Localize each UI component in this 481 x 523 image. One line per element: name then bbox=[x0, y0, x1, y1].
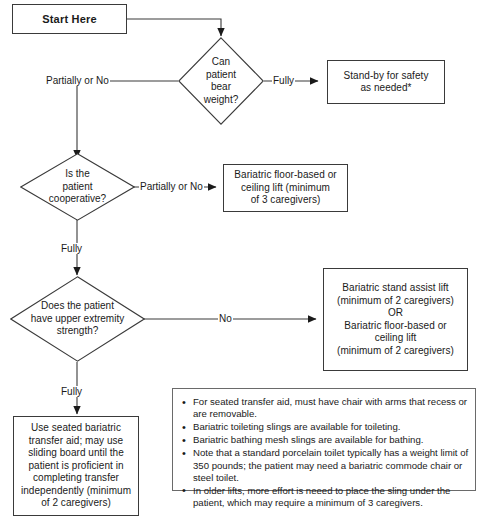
node-seated-line5: completing transfer bbox=[33, 472, 119, 483]
edge-label-no-strength: No bbox=[218, 313, 233, 324]
node-standby-for-safety: Stand-by for safety as needed* bbox=[327, 60, 445, 104]
list-item: • In older lifts, more effort is neeed t… bbox=[193, 485, 469, 510]
notes-list: • For seated transfer aid, must have cha… bbox=[173, 389, 475, 516]
bullet-icon: • bbox=[182, 484, 186, 496]
note-text: Bariatric bathing mesh slings are availa… bbox=[193, 434, 423, 445]
node-seated-line3: sliding board until the bbox=[28, 447, 124, 458]
list-item: • Bariatric toileting slings are availab… bbox=[193, 421, 469, 433]
note-text: Note that a standard porcelain toilet ty… bbox=[193, 447, 468, 483]
node-floorlift-line2: ceiling lift (minimum bbox=[241, 182, 330, 193]
edge-label-fully-cooperative: Fully bbox=[60, 243, 83, 254]
decision-bear-weight-line1: Can bbox=[212, 56, 230, 67]
edge-label-fully-weight: Fully bbox=[272, 75, 295, 86]
bullet-icon: • bbox=[182, 447, 186, 459]
decision-cooperative-line3: cooperative? bbox=[49, 193, 106, 204]
node-floor-ceiling-lift-3: Bariatric floor-based or ceiling lift (m… bbox=[223, 164, 348, 212]
node-standassist-line6: (minimum of 2 caregivers) bbox=[337, 345, 454, 356]
decision-strength-line1: Does the patient bbox=[41, 300, 114, 311]
node-standassist-line2: (minimum of 2 caregivers) bbox=[337, 295, 454, 306]
node-seated-line4: patient is proficient in bbox=[28, 460, 123, 471]
node-seated-transfer-aid: Use seated bariatric transfer aid; may u… bbox=[13, 416, 139, 516]
node-seated-line2: transfer aid; may use bbox=[29, 435, 123, 446]
decision-bear-weight-line3: bear bbox=[211, 81, 231, 92]
list-item: • Note that a standard porcelain toilet … bbox=[193, 447, 469, 484]
notes-panel: • For seated transfer aid, must have cha… bbox=[172, 388, 476, 491]
node-seated-line1: Use seated bariatric bbox=[31, 422, 121, 433]
edge-label-partially-or-no-weight: Partially or No bbox=[45, 75, 110, 86]
node-floorlift-line3: of 3 caregivers) bbox=[251, 194, 321, 205]
list-item: • Bariatric bathing mesh slings are avai… bbox=[193, 434, 469, 446]
node-standassist-line5: ceiling lift bbox=[375, 332, 417, 343]
decision-strength-line2: have upper extremity bbox=[31, 313, 124, 324]
list-item: • For seated transfer aid, must have cha… bbox=[193, 396, 469, 421]
decision-bear-weight-line4: weight? bbox=[204, 94, 238, 105]
node-start-label: Start Here bbox=[39, 13, 100, 26]
node-start: Start Here bbox=[12, 4, 127, 34]
decision-cooperative-line1: Is the bbox=[65, 168, 89, 179]
note-text: Bariatric toileting slings are available… bbox=[193, 421, 400, 432]
node-standassist-line4: Bariatric floor-based or bbox=[344, 320, 446, 331]
flowchart-canvas: Start Here Can patient bear weight? Stan… bbox=[0, 0, 481, 523]
note-text: In older lifts, more effort is neeed to … bbox=[193, 485, 450, 508]
node-stand-assist-lift: Bariatric stand assist lift (minimum of … bbox=[323, 268, 468, 371]
decision-cooperative-line2: patient bbox=[62, 181, 92, 192]
decision-strength-line3: strength? bbox=[57, 325, 99, 336]
decision-bear-weight-line2: patient bbox=[206, 69, 236, 80]
bullet-icon: • bbox=[182, 434, 186, 446]
node-standassist-line1: Bariatric stand assist lift bbox=[342, 282, 448, 293]
node-seated-line6: independently (minimum bbox=[21, 485, 131, 496]
node-standassist-line3: OR bbox=[388, 307, 403, 318]
note-text: For seated transfer aid, must have chair… bbox=[193, 396, 467, 419]
bullet-icon: • bbox=[182, 396, 186, 408]
bullet-icon: • bbox=[182, 421, 186, 433]
edge-label-fully-strength: Fully bbox=[60, 386, 83, 397]
decision-upper-extremity-strength: Does the patient have upper extremity st… bbox=[10, 276, 145, 362]
node-seated-line7: of 2 caregivers) bbox=[41, 497, 111, 508]
node-floorlift-line1: Bariatric floor-based or bbox=[234, 169, 336, 180]
node-standby-line2: as needed* bbox=[360, 82, 411, 93]
decision-bear-weight: Can patient bear weight? bbox=[178, 37, 264, 125]
edge-label-partially-or-no-cooperative: Partially or No bbox=[139, 181, 204, 192]
decision-patient-cooperative: Is the patient cooperative? bbox=[20, 153, 135, 221]
node-standby-line1: Stand-by for safety bbox=[344, 70, 429, 81]
